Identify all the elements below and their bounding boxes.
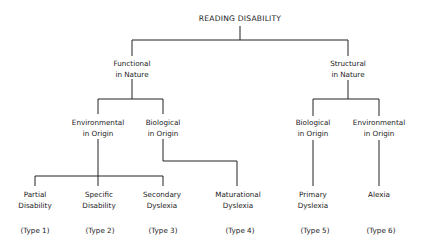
functional-line2: in Nature (114, 69, 151, 80)
func-bio-line2: in Origin (146, 128, 181, 139)
structural-connector (313, 80, 379, 116)
leaf-node-1: Partial Disability (18, 189, 51, 211)
type-label-6: (Type 6) (367, 225, 396, 236)
func-env-line1: Environmental (72, 117, 124, 128)
leaf-node-3: Secondary Dyslexia (143, 189, 181, 211)
func-bio-node: Biological in Origin (146, 117, 181, 139)
leaf-line1: Secondary (143, 189, 181, 200)
leaf-line1: Specific (82, 189, 115, 200)
leaf-node-5: Primary Dyslexia (298, 189, 328, 211)
structural-line1: Structural (330, 58, 366, 69)
functional-line1: Functional (114, 58, 151, 69)
struct-env-line1: Environmental (353, 117, 405, 128)
leaf-line1: Maturational (215, 189, 261, 200)
struct-bio-node: Biological in Origin (296, 117, 331, 139)
leaf-line1: Partial (18, 189, 51, 200)
leaf-line2: Dyslexia (143, 200, 181, 211)
struct-env-node: Environmental in Origin (353, 117, 405, 139)
func-env-node: Environmental in Origin (72, 117, 124, 139)
structural-node: Structural in Nature (330, 58, 366, 80)
functional-node: Functional in Nature (114, 58, 151, 80)
root-connector (132, 26, 348, 56)
type-label-3: (Type 3) (149, 225, 178, 236)
func-env-connector (35, 139, 163, 186)
functional-connector (98, 79, 163, 114)
func-env-line2: in Origin (72, 128, 124, 139)
type-label-5: (Type 5) (301, 225, 330, 236)
struct-env-line2: in Origin (353, 128, 405, 139)
leaf-line1: Alexia (368, 189, 390, 200)
leaf-line2: Disability (82, 200, 115, 211)
type-label-2: (Type 2) (86, 225, 115, 236)
leaf-node-4: Maturational Dyslexia (215, 189, 261, 211)
leaf-node-6: Alexia (368, 189, 390, 200)
func-bio-connector (163, 139, 237, 186)
struct-bio-line2: in Origin (296, 128, 331, 139)
leaf-line2: Dyslexia (215, 200, 261, 211)
struct-bio-line1: Biological (296, 117, 331, 128)
func-bio-line1: Biological (146, 117, 181, 128)
root-node: READING DISABILITY (199, 13, 281, 24)
leaf-line2: Dyslexia (298, 200, 328, 211)
structural-line2: in Nature (330, 69, 366, 80)
type-label-4: (Type 4) (226, 225, 255, 236)
type-label-1: (Type 1) (21, 225, 50, 236)
leaf-line2: Disability (18, 200, 51, 211)
leaf-line1: Primary (298, 189, 328, 200)
leaf-node-2: Specific Disability (82, 189, 115, 211)
